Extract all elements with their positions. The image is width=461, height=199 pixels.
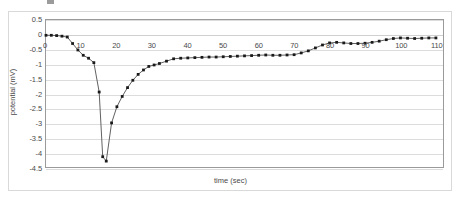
data-point-marker: [222, 55, 225, 58]
data-point-marker: [427, 37, 430, 40]
data-point-marker: [87, 57, 90, 60]
data-point-marker: [121, 95, 124, 98]
data-point-marker: [250, 54, 253, 57]
data-point-marker: [61, 35, 64, 38]
data-point-marker: [92, 61, 95, 64]
data-point-marker: [420, 37, 423, 40]
y-axis-tick-labels: 0.50-0.5-1-1.5-2-2.5-3-3.5-4-4.5: [0, 19, 42, 168]
y-tick-label: -3: [36, 119, 42, 128]
x-tick-label: 100: [395, 41, 407, 50]
data-point-marker: [115, 105, 118, 108]
data-point-marker: [172, 57, 175, 60]
data-point-marker: [66, 36, 69, 39]
clipped-artifact: [47, 0, 54, 4]
data-point-marker: [392, 37, 395, 40]
data-point-marker: [406, 37, 409, 40]
data-point-marker: [45, 34, 48, 37]
x-tick-label: 60: [255, 41, 263, 50]
x-tick-label: 10: [77, 41, 85, 50]
y-tick-label: -1: [36, 59, 42, 68]
x-tick-label: 0: [43, 41, 47, 50]
data-point-marker: [82, 54, 85, 57]
x-axis-tick-labels: 0102030405060708090100110: [45, 41, 444, 53]
y-tick-label: 0: [38, 29, 42, 38]
data-point-marker: [126, 86, 129, 89]
data-point-marker: [257, 54, 260, 57]
data-point-marker: [293, 53, 296, 56]
data-point-marker: [215, 56, 218, 59]
y-tick-label: -3.5: [29, 134, 42, 143]
y-tick-label: -2: [36, 89, 42, 98]
data-point-marker: [110, 122, 113, 125]
data-point-marker: [153, 64, 156, 67]
y-tick-label: -1.5: [29, 74, 42, 83]
data-point-marker: [165, 60, 168, 63]
gridline: [46, 169, 443, 170]
y-tick-label: 0.5: [32, 15, 42, 24]
data-point-marker: [413, 37, 416, 40]
data-point-marker: [131, 79, 134, 82]
data-point-marker: [208, 56, 211, 59]
data-point-marker: [186, 57, 189, 60]
x-tick-label: 70: [290, 41, 298, 50]
x-tick-label: 110: [431, 41, 443, 50]
data-point-marker: [158, 62, 161, 65]
data-point-marker: [229, 55, 232, 58]
data-point-marker: [271, 54, 274, 57]
x-tick-label: 90: [362, 41, 370, 50]
data-point-marker: [279, 54, 282, 57]
y-tick-label: -4: [36, 149, 42, 158]
y-tick-label: -2.5: [29, 104, 42, 113]
data-point-marker: [105, 160, 108, 163]
x-axis-title: time (sec): [0, 176, 461, 185]
x-tick-label: 80: [326, 41, 334, 50]
data-point-marker: [286, 54, 289, 57]
y-tick-label: -4.5: [29, 164, 42, 173]
data-point-marker: [50, 34, 53, 37]
data-point-marker: [101, 155, 104, 158]
data-point-marker: [179, 57, 182, 60]
data-point-marker: [243, 54, 246, 57]
data-point-marker: [98, 91, 101, 94]
data-point-marker: [236, 55, 239, 58]
series-line: [46, 35, 436, 161]
data-point-marker: [435, 37, 438, 40]
x-tick-label: 20: [112, 41, 120, 50]
data-point-marker: [193, 56, 196, 59]
x-tick-label: 50: [219, 41, 227, 50]
data-point-marker: [264, 54, 267, 57]
x-tick-label: 30: [148, 41, 156, 50]
data-point-marker: [201, 56, 204, 59]
chart-figure: potential (mV) 0.50-0.5-1-1.5-2-2.5-3-3.…: [0, 0, 461, 199]
x-tick-label: 40: [183, 41, 191, 50]
data-point-marker: [147, 65, 150, 68]
y-tick-label: -0.5: [29, 44, 42, 53]
data-point-marker: [142, 69, 145, 72]
data-point-marker: [55, 34, 58, 37]
data-point-marker: [399, 37, 402, 40]
data-point-marker: [137, 73, 140, 76]
